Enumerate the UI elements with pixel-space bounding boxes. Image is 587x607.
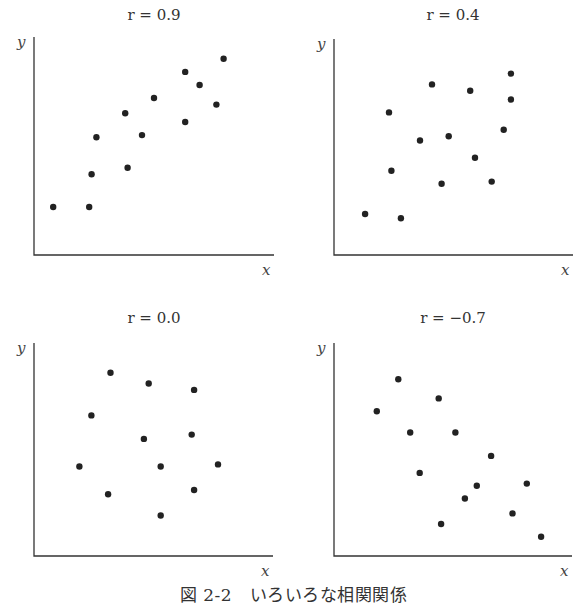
data-point: [139, 132, 145, 138]
data-point: [122, 110, 128, 116]
data-point: [386, 109, 392, 115]
scatter-panel-3: r = 0.0yx: [16, 309, 273, 580]
data-point: [489, 178, 495, 184]
data-point: [438, 181, 444, 187]
data-point: [472, 155, 478, 161]
panel-title: r = 0.9: [127, 6, 180, 24]
data-point: [362, 211, 368, 217]
data-point: [215, 461, 221, 467]
x-axis-label: x: [560, 562, 569, 580]
data-point: [467, 88, 473, 94]
data-point: [76, 463, 82, 469]
figure-caption: 図 2-2 いろいろな相関関係: [0, 581, 587, 606]
panel-title: r = −0.7: [420, 309, 486, 327]
axes: [34, 37, 274, 255]
data-point: [374, 408, 380, 414]
panel-title: r = 0.4: [426, 6, 479, 24]
data-point: [474, 483, 480, 489]
data-point: [488, 453, 494, 459]
data-point: [182, 69, 188, 75]
data-point: [524, 480, 530, 486]
data-point: [146, 380, 152, 386]
data-point: [508, 96, 514, 102]
data-point: [501, 127, 507, 133]
data-point: [151, 95, 157, 101]
y-axis-label: y: [316, 35, 326, 53]
data-point: [407, 429, 413, 435]
data-point: [438, 521, 444, 527]
data-point: [88, 412, 94, 418]
scatter-panel-1: r = 0.9yx: [16, 6, 274, 279]
data-point: [158, 463, 164, 469]
x-axis-label: x: [561, 261, 570, 279]
y-axis-label: y: [316, 339, 326, 357]
data-point: [124, 165, 130, 171]
data-point: [88, 171, 94, 177]
axes: [334, 343, 572, 556]
data-point: [388, 168, 394, 174]
data-point: [50, 204, 56, 210]
y-axis-label: y: [16, 33, 26, 51]
data-point: [93, 134, 99, 140]
data-point: [189, 431, 195, 437]
data-point: [191, 487, 197, 493]
data-point: [158, 512, 164, 518]
x-axis-label: x: [261, 562, 270, 580]
y-axis-label: y: [16, 339, 26, 357]
data-point: [182, 119, 188, 125]
data-point: [398, 215, 404, 221]
data-point: [86, 204, 92, 210]
data-point: [429, 81, 435, 87]
scatter-panel-2: r = 0.4yx: [316, 6, 573, 279]
data-point: [417, 470, 423, 476]
axes: [334, 39, 573, 255]
data-point: [508, 70, 514, 76]
data-point: [452, 429, 458, 435]
axes: [34, 343, 273, 556]
data-point: [213, 101, 219, 107]
data-point: [417, 137, 423, 143]
data-point: [538, 534, 544, 540]
panel-title: r = 0.0: [127, 309, 180, 327]
data-point: [141, 436, 147, 442]
data-point: [395, 376, 401, 382]
data-point: [509, 510, 515, 516]
x-axis-label: x: [262, 261, 271, 279]
data-point: [196, 82, 202, 88]
data-point: [446, 133, 452, 139]
scatter-panel-4: r = −0.7yx: [316, 309, 572, 580]
data-point: [436, 395, 442, 401]
data-point: [105, 491, 111, 497]
data-point: [220, 56, 226, 62]
data-point: [191, 387, 197, 393]
data-point: [462, 495, 468, 501]
correlation-figure: r = 0.9yxr = 0.4yxr = 0.0yxr = −0.7yx: [0, 0, 587, 607]
data-point: [107, 370, 113, 376]
